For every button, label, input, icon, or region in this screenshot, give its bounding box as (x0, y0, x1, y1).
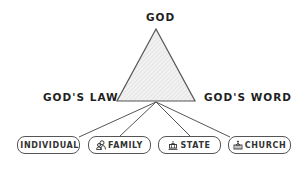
node-individual: INDIVIDUAL (17, 136, 80, 154)
connector-family (120, 102, 156, 136)
connector-state (156, 102, 190, 136)
connector-church (156, 102, 230, 137)
node-label: INDIVIDUAL (20, 141, 79, 150)
node-label: STATE (180, 141, 210, 150)
government-building-icon (168, 140, 178, 150)
triangle (117, 29, 195, 101)
right-label: GOD'S WORD (204, 91, 292, 103)
left-label: GOD'S LAW (43, 91, 119, 103)
apex-label: GOD (146, 11, 175, 23)
node-label: FAMILY (108, 141, 143, 150)
family-icon (96, 140, 106, 150)
node-church: CHURCH (228, 136, 291, 154)
node-label: CHURCH (245, 141, 286, 150)
church-icon (233, 140, 243, 150)
node-family: FAMILY (88, 136, 151, 154)
node-state: STATE (158, 136, 221, 154)
connector-individual (79, 102, 156, 137)
